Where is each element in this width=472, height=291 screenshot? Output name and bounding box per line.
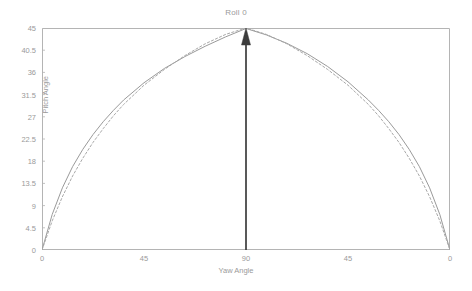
x-tick-label: 0 [40,254,44,263]
y-tick-label: 9 [32,201,36,210]
plot-svg [42,28,450,250]
x-tick-label: 0 [448,254,452,263]
x-axis-title: Yaw Angle [0,266,472,275]
y-axis-title: Pitch Angle [41,76,50,114]
y-tick-label: 45 [28,24,36,33]
x-tick-label: 90 [242,254,250,263]
y-tick-label: 31.5 [21,90,36,99]
chart-figure: Roll 0 04.5913.51822.52731.53640.545 045… [0,0,472,291]
annotation-group [242,28,251,250]
x-tick-label: 45 [344,254,352,263]
plot-area [42,28,450,250]
y-tick-label: 13.5 [21,179,36,188]
y-tick-label: 18 [28,157,36,166]
y-tick-label: 4.5 [26,223,36,232]
y-tick-label: 36 [28,68,36,77]
y-tick-label: 0 [32,246,36,255]
chart-title: Roll 0 [0,8,472,17]
y-tick-label: 22.5 [21,135,36,144]
y-tick-label: 27 [28,112,36,121]
y-tick-label: 40.5 [21,46,36,55]
x-tick-label: 45 [140,254,148,263]
